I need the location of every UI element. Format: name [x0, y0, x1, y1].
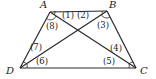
arc-c-top [129, 62, 133, 64]
trapezoid-diagram: A B C D (1) (2) (3) (4) (5) (6) (7) (8) [0, 0, 156, 79]
angle-labels: (1) (2) (3) (4) (5) (6) (7) (8) [30, 10, 122, 66]
angle-label-8: (8) [46, 21, 58, 31]
angle-label-6: (6) [36, 56, 48, 66]
angle-label-1: (1) [62, 10, 74, 20]
vertex-label-b: B [108, 0, 116, 10]
angle-label-5: (5) [103, 56, 115, 66]
angle-label-4: (4) [110, 43, 122, 53]
vertex-label-a: A [39, 0, 47, 10]
vertex-label-d: D [5, 65, 14, 76]
angle-label-7: (7) [30, 42, 42, 52]
angle-label-3: (3) [97, 20, 109, 30]
angle-label-2: (2) [77, 10, 89, 20]
vertex-label-c: C [140, 65, 148, 76]
arc-d [23, 62, 27, 64]
